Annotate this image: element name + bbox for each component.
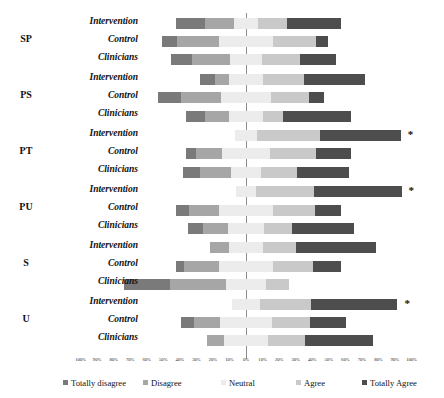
segment-neutral [220,317,271,328]
segment-disagree [181,92,221,103]
segment-disagree [170,279,226,290]
x-tick-label: 100% [72,357,90,362]
segment-neutral [219,205,274,216]
segment-totally_agree [315,205,341,216]
legend-item-totally_agree: Totally Agree [362,378,417,388]
x-tick-label: 100% [403,357,421,362]
segment-totally_agree [314,186,402,197]
segment-neutral [230,54,261,65]
segment-totally_disagree [181,317,194,328]
segment-totally_agree [292,223,353,234]
x-tick-label: 30% [187,357,205,362]
bar-s-clinicians [124,279,290,290]
legend-swatch-disagree [143,380,148,385]
segment-totally_agree [316,36,328,47]
segment-totally_agree [300,54,336,65]
x-tick-label: 40% [303,357,321,362]
segment-neutral [228,223,264,234]
significance-asterisk: * [409,185,415,196]
bar-s-intervention [210,242,376,253]
segment-disagree [189,205,219,216]
bar-pu-intervention [236,186,402,197]
row-label-sp-control: Control [48,34,138,44]
segment-agree [273,261,313,272]
bar-sp-control [162,36,328,47]
segment-agree [263,111,283,122]
segment-agree [264,223,292,234]
x-tick-label: 50% [154,357,172,362]
group-label-pt: PT [6,145,46,156]
x-tick-label: 40% [171,357,189,362]
group-label-pu: PU [6,201,46,212]
legend-label: Neutral [229,378,255,388]
row-label-ps-clinicians: Clinicians [48,108,138,118]
group-label-sp: SP [6,33,46,44]
segment-agree [261,167,297,178]
bar-u-clinicians [207,335,373,346]
segment-totally_disagree [188,223,203,234]
legend-item-neutral: Neutral [221,378,255,388]
segment-neutral [234,18,259,29]
legend-label: Totally disagree [71,378,126,388]
segment-totally_disagree [176,261,184,272]
bar-pt-intervention [235,130,401,141]
chart-legend: Totally disagreeDisagreeNeutralAgreeTota… [0,376,444,394]
segment-disagree [203,223,228,234]
segment-disagree [184,261,219,272]
segment-disagree [207,335,224,346]
segment-totally_disagree [200,74,215,85]
legend-item-agree: Agree [296,378,325,388]
segment-disagree [215,74,230,85]
row-label-pt-clinicians: Clinicians [48,164,138,174]
x-tick-label: 20% [270,357,288,362]
segment-totally_agree [316,148,351,159]
group-label-ps: PS [6,89,46,100]
segment-agree [258,18,286,29]
row-label-pu-intervention: Intervention [48,184,138,194]
segment-totally_agree [309,92,324,103]
segment-neutral [219,36,274,47]
segment-agree [273,36,316,47]
x-tick-label: 80% [369,357,387,362]
row-label-s-clinicians: Clinicians [48,276,138,286]
segment-neutral [226,279,266,290]
segment-totally_agree [313,261,341,272]
row-label-pu-control: Control [48,202,138,212]
legend-item-totally_disagree: Totally disagree [63,378,126,388]
segment-agree [268,335,304,346]
legend-swatch-totally_agree [362,380,367,385]
segment-agree [262,54,300,65]
row-label-pt-intervention: Intervention [48,128,138,138]
x-tick-label: 30% [287,357,305,362]
bar-u-intervention [232,299,398,310]
segment-agree [263,74,304,85]
row-label-s-control: Control [48,258,138,268]
segment-totally_disagree [186,148,196,159]
segment-neutral [229,111,264,122]
legend-swatch-neutral [221,380,226,385]
x-tick-label: 10% [254,357,272,362]
x-tick-label: 80% [105,357,123,362]
segment-disagree [205,111,228,122]
row-label-pt-control: Control [48,146,138,156]
segment-totally_agree [304,74,365,85]
segment-agree [272,317,310,328]
x-tick-label: 70% [353,357,371,362]
legend-label: Totally Agree [370,378,417,388]
x-tick-label: 90% [386,357,404,362]
group-label-u: U [6,313,46,324]
segment-totally_disagree [158,92,181,103]
group-label-s: S [6,257,46,268]
bar-ps-clinicians [186,111,352,122]
segment-disagree [205,18,233,29]
segment-neutral [224,335,269,346]
bar-u-control [181,317,347,328]
segment-neutral [231,167,261,178]
row-label-ps-control: Control [48,90,138,100]
segment-neutral [235,130,257,141]
row-label-sp-intervention: Intervention [48,16,138,26]
row-label-u-control: Control [48,314,138,324]
segment-totally_agree [320,130,401,141]
segment-neutral [219,261,274,272]
segment-neutral [236,186,256,197]
